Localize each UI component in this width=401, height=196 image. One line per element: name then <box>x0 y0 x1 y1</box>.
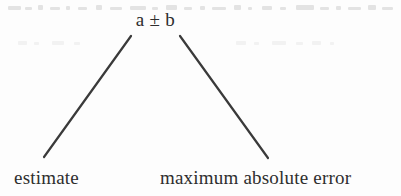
callout-label-maximum-absolute-error-text: maximum absolute error <box>160 167 351 188</box>
right-connector-line <box>180 36 268 158</box>
figure-canvas: a ± b estimate maximum absolute error <box>0 0 401 196</box>
scan-artifact-band-secondary <box>0 36 401 52</box>
apex-expression-text: a ± b <box>136 9 175 30</box>
callout-label-estimate: estimate <box>14 168 79 187</box>
callout-label-estimate-text: estimate <box>14 167 79 188</box>
callout-label-maximum-absolute-error: maximum absolute error <box>160 168 351 187</box>
left-connector-line <box>44 36 131 157</box>
apex-expression: a ± b <box>0 10 356 29</box>
